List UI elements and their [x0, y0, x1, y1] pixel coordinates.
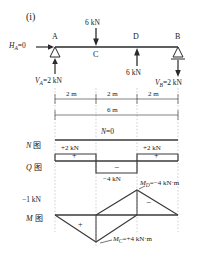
beam-internal-force-diagram-figure: (i) A C D B 6 kN 6 kN HA=0 VA=2 kN VB=2 …: [0, 0, 206, 259]
reaction-label-VB: VB=2 kN: [155, 79, 182, 87]
m-sign-negative: −: [146, 198, 151, 207]
dimension-segment-3: 2 m: [148, 91, 159, 98]
reaction-label-VA: VA=2 kN: [35, 77, 62, 85]
node-label-D: D: [133, 33, 139, 41]
dimension-segment-1: 2 m: [66, 91, 77, 98]
support-A-pin: [50, 47, 60, 57]
reaction-VB-value: =2 kN: [163, 78, 182, 87]
load-label-C: 6 kN: [85, 19, 100, 27]
reaction-HA-arrow: [36, 44, 54, 50]
reaction-VA-symbol: V: [35, 76, 40, 85]
dimension-total: 6 m: [107, 107, 118, 114]
m-leader-C: [100, 240, 112, 243]
load-label-D: 6 kN: [126, 69, 141, 77]
load-C-down-arrow: [93, 28, 99, 46]
dimension-segment-2: 2 m: [107, 91, 118, 98]
reaction-VB-subscript: B: [160, 82, 163, 88]
reaction-VA-value: =2 kN: [43, 76, 62, 85]
q-diagram-cjk-label: 图: [34, 163, 42, 172]
q-sign-middle: −: [114, 163, 119, 172]
reaction-VB-arrow: [175, 60, 181, 77]
load-D-up-arrow: [134, 48, 140, 66]
n-diagram-title: N图: [26, 135, 41, 151]
figure-caption: (i): [26, 12, 35, 22]
beam-assembly: [36, 28, 185, 77]
reaction-VA-arrow: [52, 58, 58, 74]
q-diagram-symbol: Q: [26, 163, 32, 172]
reaction-VB-symbol: V: [155, 78, 160, 87]
m-sign-positive: +: [78, 221, 83, 229]
node-label-A: A: [52, 33, 58, 41]
m-label-C-value: =+4 kN·m: [123, 235, 152, 243]
node-label-C: C: [93, 51, 98, 59]
m-label-C-subscript: C: [119, 238, 123, 244]
reaction-label-HA: HA=0: [9, 42, 26, 50]
m-value-label-C: MC=+4 kN·m: [113, 236, 152, 243]
reaction-HA-value: =0: [18, 41, 26, 50]
m-diagram-cjk-label: 图: [35, 214, 43, 223]
node-label-B: B: [175, 33, 180, 41]
n-diagram-symbol: N: [26, 141, 31, 150]
m-label-C-symbol: M: [113, 235, 119, 243]
m-diagram-corner-label: −1 kN: [22, 196, 41, 204]
q-sign-left: +: [72, 152, 77, 160]
n-diagram-annotation: N=0: [101, 128, 114, 136]
reaction-HA-subscript: A: [14, 45, 17, 51]
m-label-D-symbol: M: [140, 179, 146, 187]
reaction-VA-subscript: A: [40, 80, 43, 86]
m-diagram-symbol: M: [26, 214, 33, 223]
n-annotation-value: =0: [106, 127, 114, 136]
q-sign-right: +: [154, 152, 159, 160]
m-label-D-value: =−4 kN·m: [150, 179, 179, 187]
m-value-label-D: MD=−4 kN·m: [140, 180, 179, 187]
n-diagram-cjk-label: 图: [33, 141, 41, 150]
support-B-roller: [171, 47, 185, 59]
q-diagram-title: Q图: [26, 157, 42, 173]
m-diagram-title: M图: [26, 208, 43, 224]
q-value-label-middle: −4 kN: [103, 176, 121, 183]
m-label-D-subscript: D: [146, 182, 150, 188]
